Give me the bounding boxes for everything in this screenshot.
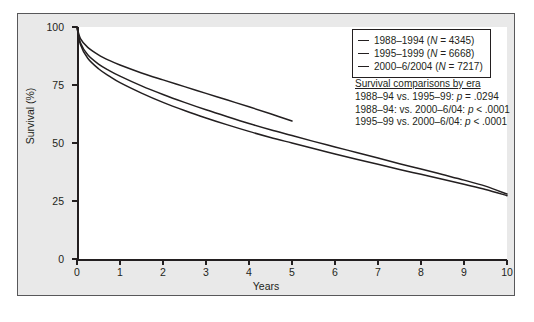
- stats-annotation-block: Survival comparisons by era 1988–94 vs. …: [355, 78, 510, 129]
- stats-row: 1988–94: vs. 2000–6/04: p < .0001: [355, 104, 510, 117]
- x-tick-mark: [205, 260, 207, 265]
- y-axis-line: [77, 27, 79, 260]
- x-tick-label: 8: [406, 267, 436, 277]
- stats-row: 1995–99 vs. 2000–6/04: p < .0001: [355, 116, 510, 129]
- stats-rows: 1988–94 vs. 1995–99: p = .02941988–94: v…: [355, 91, 510, 129]
- x-tick-label: 6: [320, 267, 350, 277]
- x-tick-label: 10: [492, 267, 522, 277]
- y-tick-label: 50: [34, 138, 64, 148]
- y-tick-label: 75: [34, 80, 64, 90]
- x-tick-mark: [420, 260, 422, 265]
- legend-line-icon: [358, 53, 369, 55]
- survival-curve: [77, 27, 292, 121]
- y-axis-title: Survival (%): [24, 88, 36, 145]
- y-tick-mark: [72, 200, 77, 202]
- y-tick-label: 100: [34, 22, 64, 32]
- x-tick-label: 4: [234, 267, 264, 277]
- stats-title: Survival comparisons by era: [355, 78, 510, 91]
- x-tick-mark: [377, 260, 379, 265]
- y-tick-label: 25: [34, 196, 64, 206]
- y-tick-mark: [72, 84, 77, 86]
- legend-box: 1988–1994 (N = 4345)1995–1999 (N = 6668)…: [352, 29, 491, 78]
- x-tick-mark: [162, 260, 164, 265]
- y-tick-mark: [72, 142, 77, 144]
- x-tick-mark: [76, 260, 78, 265]
- legend-item: 2000–6/2004 (N = 7217): [358, 60, 483, 73]
- x-tick-label: 5: [277, 267, 307, 277]
- legend-line-icon: [358, 40, 369, 42]
- x-tick-mark: [291, 260, 293, 265]
- x-tick-label: 1: [105, 267, 135, 277]
- x-axis-title: Years: [18, 280, 514, 292]
- y-tick-label: 0: [34, 254, 64, 264]
- x-tick-label: 0: [62, 267, 92, 277]
- x-tick-mark: [463, 260, 465, 265]
- legend-line-icon: [358, 66, 369, 68]
- x-tick-mark: [334, 260, 336, 265]
- x-tick-mark: [119, 260, 121, 265]
- x-tick-label: 2: [148, 267, 178, 277]
- legend-item: 1995–1999 (N = 6668): [358, 47, 483, 60]
- x-axis-title-label: Years: [253, 280, 279, 292]
- x-tick-mark: [506, 260, 508, 265]
- legend-item-label: 2000–6/2004 (N = 7217): [374, 60, 483, 73]
- legend-item: 1988–1994 (N = 4345): [358, 34, 483, 47]
- x-tick-label: 7: [363, 267, 393, 277]
- legend-item-label: 1988–1994 (N = 4345): [374, 34, 474, 47]
- stats-row: 1988–94 vs. 1995–99: p = .0294: [355, 91, 510, 104]
- figure-frame: 0255075100 012345678910 Survival (%) Yea…: [17, 13, 515, 296]
- y-tick-mark: [72, 26, 77, 28]
- legend-item-label: 1995–1999 (N = 6668): [374, 47, 474, 60]
- x-tick-mark: [248, 260, 250, 265]
- x-tick-label: 9: [449, 267, 479, 277]
- x-tick-label: 3: [191, 267, 221, 277]
- y-axis-title-label: Survival (%): [24, 88, 36, 145]
